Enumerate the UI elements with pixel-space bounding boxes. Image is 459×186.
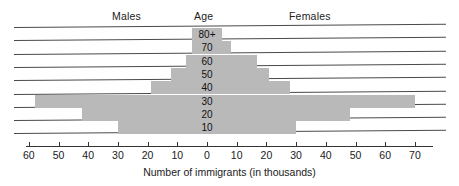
axis-tick [177, 142, 178, 147]
axis-tick-label: 30 [112, 149, 124, 161]
axis-tick [59, 142, 60, 147]
pyramid-row: 80+ [0, 28, 459, 41]
pyramid-row: 60 [0, 55, 459, 68]
axis-tick [118, 142, 119, 147]
age-group-label: 30 [193, 95, 221, 108]
axis-tick-label: 40 [320, 149, 332, 161]
females-column-header: Females [289, 10, 331, 22]
axis-tick [266, 142, 267, 147]
age-group-label: 70 [193, 41, 221, 54]
axis-tick [88, 142, 89, 147]
axis-tick [356, 142, 357, 147]
pyramid-row: 70 [0, 41, 459, 54]
axis-tick [415, 142, 416, 147]
axis-tick [207, 142, 208, 147]
axis-tick-label: 20 [261, 149, 273, 161]
age-group-label: 20 [193, 108, 221, 121]
axis-tick [385, 142, 386, 147]
plot-area: 80+70605040302010 [0, 26, 459, 142]
axis-tick-label: 60 [23, 149, 35, 161]
female-bar [207, 108, 350, 121]
pyramid-row: 30 [0, 95, 459, 108]
axis-tick-label: 50 [350, 149, 362, 161]
axis-tick-label: 10 [231, 149, 243, 161]
axis-tick-label: 0 [204, 149, 210, 161]
males-column-header: Males [112, 10, 141, 22]
pyramid-row: 10 [0, 121, 459, 134]
axis-tick [237, 142, 238, 147]
pyramid-row: 20 [0, 108, 459, 121]
age-group-label: 10 [193, 121, 221, 134]
axis-tick-label: 30 [290, 149, 302, 161]
male-bar [82, 108, 207, 121]
axis-caption: Number of immigrants (in thousands) [0, 166, 459, 178]
population-pyramid-chart: Males Age Females 80+70605040302010 6050… [0, 0, 459, 186]
axis-tick [29, 142, 30, 147]
age-column-header: Age [194, 10, 213, 22]
axis-tick-label: 40 [82, 149, 94, 161]
axis-tick-label: 50 [53, 149, 65, 161]
axis-baseline [26, 146, 433, 147]
male-bar [35, 95, 207, 108]
axis-tick-label: 70 [409, 149, 421, 161]
female-bar [207, 95, 415, 108]
axis-tick [326, 142, 327, 147]
pyramid-row: 40 [0, 81, 459, 94]
axis-tick [296, 142, 297, 147]
age-group-label: 50 [193, 68, 221, 81]
age-group-label: 80+ [193, 28, 221, 41]
age-group-label: 60 [193, 55, 221, 68]
pyramid-row: 50 [0, 68, 459, 81]
axis-tick-label: 20 [142, 149, 154, 161]
axis-tick-label: 60 [379, 149, 391, 161]
age-group-label: 40 [193, 81, 221, 94]
axis-tick [148, 142, 149, 147]
axis-tick-label: 10 [171, 149, 183, 161]
x-axis: 605040302010010203040506070 Number of im… [0, 142, 459, 186]
